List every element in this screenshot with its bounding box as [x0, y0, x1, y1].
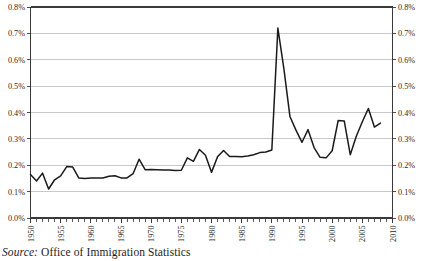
- y-tick-label-right: 0.8%: [398, 3, 415, 12]
- y-tick-label-left: 0.7%: [8, 29, 25, 38]
- y-tick-label-right: 0.5%: [398, 82, 415, 91]
- x-axis-labels: 1950195519601965197019751980198519901995…: [27, 226, 398, 242]
- y-tick-label-left: 0.8%: [8, 3, 25, 12]
- y-tick-label-right: 0.6%: [398, 56, 415, 65]
- x-tick-label: 1985: [238, 226, 247, 242]
- x-tick-label: 1965: [117, 226, 126, 242]
- y-tick-label-right: 0.3%: [398, 135, 415, 144]
- x-tick-label: 1975: [177, 226, 186, 242]
- x-tick-label: 1955: [57, 226, 66, 242]
- y-tick-label-right: 0.4%: [398, 109, 415, 118]
- source-note-label: Source:: [2, 246, 38, 258]
- source-note: Source: Office of Immigration Statistics: [2, 246, 191, 258]
- y-tick-label-left: 0.4%: [8, 109, 25, 118]
- x-tick-label: 1995: [298, 226, 307, 242]
- y-tick-label-right: 0.0%: [398, 214, 415, 223]
- y-axis-labels-left: 0.0%0.1%0.2%0.3%0.4%0.5%0.6%0.7%0.8%: [8, 3, 25, 223]
- y-tick-label-left: 0.0%: [8, 214, 25, 223]
- x-tick-label: 1960: [87, 226, 96, 242]
- x-axis-tick-marks: [31, 218, 393, 223]
- source-note-text: Office of Immigration Statistics: [38, 246, 191, 258]
- x-tick-label: 1970: [147, 226, 156, 242]
- immigration-rate-line-chart: 0.0%0.1%0.2%0.3%0.4%0.5%0.6%0.7%0.8% 0.0…: [0, 0, 423, 261]
- y-tick-label-left: 0.1%: [8, 188, 25, 197]
- y-tick-label-left: 0.3%: [8, 135, 25, 144]
- y-tick-label-right: 0.1%: [398, 188, 415, 197]
- y-tick-label-right: 0.2%: [398, 161, 415, 170]
- x-tick-label: 1990: [268, 226, 277, 242]
- y-tick-label-left: 0.6%: [8, 56, 25, 65]
- x-tick-label: 2000: [328, 226, 337, 242]
- y-tick-label-right: 0.7%: [398, 29, 415, 38]
- chart-figure: 0.0%0.1%0.2%0.3%0.4%0.5%0.6%0.7%0.8% 0.0…: [0, 0, 423, 261]
- x-tick-label: 2005: [358, 226, 367, 242]
- x-tick-label: 2010: [389, 226, 398, 242]
- x-tick-label: 1950: [27, 226, 36, 242]
- y-axis-labels-right: 0.0%0.1%0.2%0.3%0.4%0.5%0.6%0.7%0.8%: [398, 3, 415, 223]
- y-tick-label-left: 0.2%: [8, 161, 25, 170]
- y-tick-label-left: 0.5%: [8, 82, 25, 91]
- x-tick-label: 1980: [208, 226, 217, 242]
